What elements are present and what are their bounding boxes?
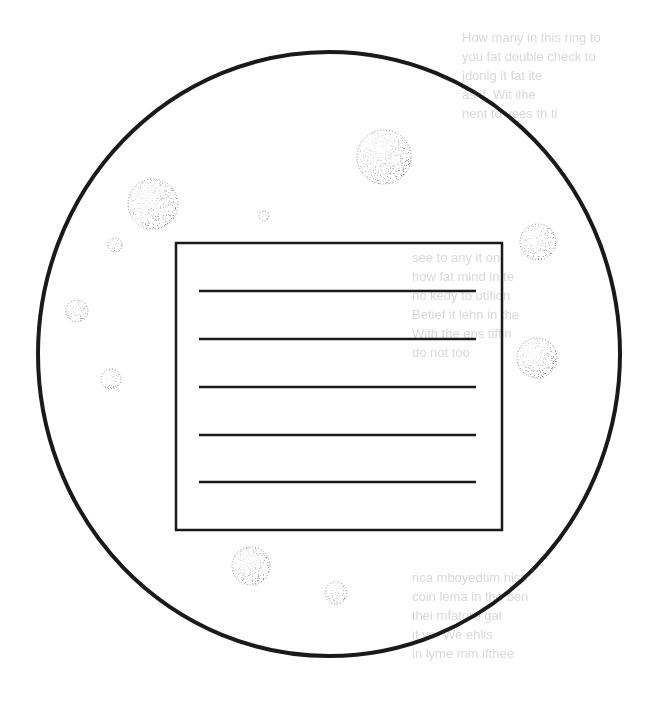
bubble [66,300,88,322]
writing-lines [199,291,476,482]
bubble [101,369,121,389]
bubble [357,130,411,184]
bubble [259,211,269,221]
bubble [232,547,270,585]
diagram-canvas [0,0,649,710]
bubble [108,238,122,252]
bubbles-group [66,130,557,604]
writing-box [176,243,502,530]
bubble [517,338,557,378]
bubble [128,179,178,229]
bubble [520,224,556,260]
bubble [325,582,347,604]
